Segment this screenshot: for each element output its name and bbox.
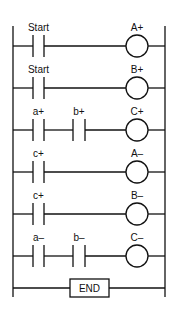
contact-label: c+ bbox=[33, 148, 44, 159]
output-coil bbox=[126, 161, 148, 183]
contact-label: b– bbox=[73, 232, 85, 243]
coil-label: C+ bbox=[130, 106, 143, 117]
rung-3 bbox=[13, 119, 165, 141]
output-coil bbox=[126, 119, 148, 141]
coil-label: B+ bbox=[131, 64, 144, 75]
output-coil bbox=[126, 77, 148, 99]
rung-2 bbox=[13, 77, 165, 99]
output-coil bbox=[126, 203, 148, 225]
contact-label: c+ bbox=[33, 190, 44, 201]
rung-1 bbox=[13, 35, 165, 57]
coil-label: C– bbox=[131, 232, 144, 243]
contact-label: a– bbox=[33, 232, 45, 243]
coil-label: A+ bbox=[131, 22, 144, 33]
output-coil bbox=[126, 35, 148, 57]
ladder-diagram: StartA+StartB+a+b+C+c+A–c+B–a–b–C– END bbox=[0, 0, 177, 315]
contact-label: a+ bbox=[33, 106, 45, 117]
contact-label: Start bbox=[28, 64, 49, 75]
output-coil bbox=[126, 245, 148, 267]
coil-label: A– bbox=[131, 148, 144, 159]
rung-6 bbox=[13, 245, 165, 267]
coil-label: B– bbox=[131, 190, 144, 201]
rung-4 bbox=[13, 161, 165, 183]
contact-label: b+ bbox=[73, 106, 85, 117]
end-label: END bbox=[79, 283, 100, 294]
rung-5 bbox=[13, 203, 165, 225]
contact-label: Start bbox=[28, 22, 49, 33]
